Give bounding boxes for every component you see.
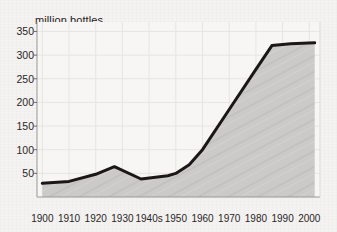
x-tick-label-1930: 1930 xyxy=(111,213,133,224)
x-tick-label-1940s: 1940s xyxy=(136,213,163,224)
x-tick-label-1920: 1920 xyxy=(85,213,107,224)
x-tick-label-1900: 1900 xyxy=(31,213,53,224)
x-tick-label-1910: 1910 xyxy=(58,213,80,224)
x-tick-label-1990: 1990 xyxy=(271,213,293,224)
x-tick-label-2000: 2000 xyxy=(298,213,320,224)
million-bottles-area-chart: million bottles 35030025020015010050 xyxy=(0,0,337,232)
x-tick-label-1960: 1960 xyxy=(191,213,213,224)
x-tick-label-1970: 1970 xyxy=(218,213,240,224)
x-tick-label-1980: 1980 xyxy=(245,213,267,224)
x-tick-label-1950: 1950 xyxy=(165,213,187,224)
plot-area xyxy=(0,0,337,232)
